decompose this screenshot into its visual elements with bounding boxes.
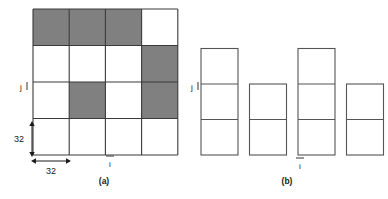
height-dimension-label: 32	[14, 134, 24, 144]
column-stack	[347, 84, 384, 155]
column-outline	[298, 49, 335, 156]
width-dimension-arrow	[31, 158, 71, 163]
column-stack	[201, 49, 238, 156]
panel-b: j i (b)	[190, 49, 383, 187]
column-outline	[201, 49, 238, 156]
grid-cell	[105, 46, 141, 83]
grid-cell	[142, 119, 178, 156]
panel-b-caption: (b)	[282, 176, 293, 186]
grid-cell	[142, 82, 178, 119]
grid-cell	[33, 46, 69, 83]
panel-a-caption: (a)	[99, 176, 110, 186]
width-dimension-label: 32	[46, 166, 56, 176]
column-stacks	[201, 49, 384, 156]
i-axis-label-a: i	[109, 160, 111, 169]
column-stack	[298, 49, 335, 156]
grid-cell	[33, 82, 69, 119]
j-axis-label-b: j	[190, 83, 193, 92]
grid-cell	[33, 9, 69, 46]
grid-cell	[69, 9, 105, 46]
panel-a: j i 32 32 (a)	[14, 9, 178, 186]
grid-cell	[142, 9, 178, 46]
column-stack	[250, 84, 287, 155]
figure-svg: j i 32 32 (a)	[0, 0, 388, 199]
grid-cell	[105, 119, 141, 156]
j-axis-label-a: j	[19, 83, 22, 92]
grid-cell	[69, 82, 105, 119]
grid-cell	[33, 119, 69, 156]
grid-cell	[69, 119, 105, 156]
grid-cell	[142, 46, 178, 83]
grid-cell	[105, 9, 141, 46]
i-axis-label-b: i	[299, 162, 301, 171]
grid-cell	[69, 46, 105, 83]
figure-container: j i 32 32 (a)	[0, 0, 388, 199]
grid-cell	[105, 82, 141, 119]
